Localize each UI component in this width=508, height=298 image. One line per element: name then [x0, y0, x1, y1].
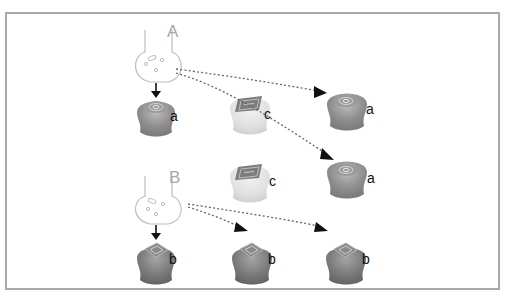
- down-arrow-icon: [151, 83, 161, 98]
- squiggle-arrow-b-to-col3: [188, 204, 328, 232]
- cell-label-a: a: [366, 101, 374, 117]
- diagram-canvas: A a c a c: [0, 0, 508, 298]
- cell-a-icon: [327, 162, 367, 199]
- cell-b-icon: [232, 243, 272, 285]
- squiggle-arrow-a-upper: [176, 69, 327, 98]
- cell-label-a: a: [170, 108, 178, 124]
- cell-label-b: b: [268, 251, 276, 267]
- cell-label-b: b: [362, 251, 370, 267]
- cell-label-a: a: [367, 170, 375, 186]
- cell-c-icon: [230, 164, 270, 203]
- down-arrow-icon: [151, 225, 161, 240]
- cell-label-c-bottom: c: [269, 173, 276, 189]
- cell-b-icon: [326, 243, 366, 285]
- cell-label-b: b: [169, 251, 177, 267]
- cell-a-icon: [327, 94, 367, 131]
- squiggle-arrow-b-to-col2: [188, 207, 248, 232]
- panel-label-b: B: [169, 168, 180, 187]
- panel-label-a: A: [167, 22, 179, 41]
